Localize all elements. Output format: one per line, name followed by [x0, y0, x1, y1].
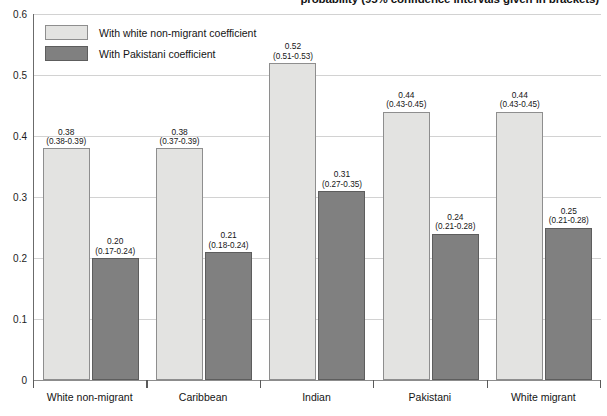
x-axis-tick — [33, 380, 34, 388]
bar-value-label: 0.52(0.51-0.53) — [273, 42, 313, 61]
bar-confidence-interval: (0.51-0.53) — [273, 52, 313, 61]
bar-group: 0.44(0.43-0.45)0.25(0.21-0.28) — [488, 14, 601, 380]
bar-value: 0.21 — [209, 231, 249, 240]
x-axis-tick — [260, 380, 261, 388]
bar[interactable]: 0.38(0.37-0.39) — [156, 148, 203, 380]
bar-value-label: 0.44(0.43-0.45) — [386, 91, 426, 110]
plot-area: 0.38(0.38-0.39)0.20(0.17-0.24)0.38(0.37-… — [33, 14, 601, 380]
bar-value: 0.38 — [160, 128, 200, 137]
bar-confidence-interval: (0.21-0.28) — [435, 222, 475, 231]
bar-confidence-interval: (0.27-0.35) — [322, 180, 362, 189]
bar-value-label: 0.25(0.21-0.28) — [549, 207, 589, 226]
bar-value-label: 0.44(0.43-0.45) — [500, 91, 540, 110]
plot-inner: 0.38(0.38-0.39)0.20(0.17-0.24)0.38(0.37-… — [34, 14, 601, 380]
legend-item[interactable]: With Pakistani coefficient — [45, 46, 256, 61]
y-tick-label: 0.4 — [13, 131, 27, 142]
bar-group: 0.38(0.38-0.39)0.20(0.17-0.24) — [34, 14, 147, 380]
x-axis-tick — [146, 380, 147, 388]
x-category-label: Pakistani — [409, 391, 452, 403]
legend-swatch-light — [45, 25, 88, 40]
bar[interactable]: 0.20(0.17-0.24) — [92, 258, 139, 380]
bar[interactable]: 0.24(0.21-0.28) — [432, 234, 479, 380]
y-tick-label: 0.1 — [13, 314, 27, 325]
bar-group: 0.44(0.43-0.45)0.24(0.21-0.28) — [374, 14, 487, 380]
bar-confidence-interval: (0.37-0.39) — [160, 137, 200, 146]
y-tick-label: 0.6 — [13, 9, 27, 20]
legend-label: With white non-migrant coefficient — [99, 27, 256, 39]
bar-value: 0.44 — [386, 91, 426, 100]
x-axis: White non-migrantCaribbeanIndianPakistan… — [33, 380, 600, 416]
bar-confidence-interval: (0.38-0.39) — [46, 137, 86, 146]
bar-value-label: 0.38(0.37-0.39) — [160, 128, 200, 147]
bar-value: 0.25 — [549, 207, 589, 216]
legend-swatch-dark — [45, 46, 88, 61]
bar-value-label: 0.31(0.27-0.35) — [322, 170, 362, 189]
bar[interactable]: 0.25(0.21-0.28) — [545, 228, 592, 381]
bar-confidence-interval: (0.21-0.28) — [549, 216, 589, 225]
bar-value-label: 0.38(0.38-0.39) — [46, 128, 86, 147]
y-tick-label: 0.2 — [13, 253, 27, 264]
bar[interactable]: 0.38(0.38-0.39) — [43, 148, 90, 380]
bar-chart-figure: 00.10.20.30.40.50.6 0.38(0.38-0.39)0.20(… — [0, 0, 607, 416]
bar-confidence-interval: (0.43-0.45) — [386, 100, 426, 109]
bar-value: 0.20 — [95, 237, 135, 246]
x-axis-tick — [600, 380, 601, 388]
bar-value: 0.24 — [435, 213, 475, 222]
bar[interactable]: 0.44(0.43-0.45) — [383, 112, 430, 380]
bar-value: 0.38 — [46, 128, 86, 137]
x-axis-tick — [373, 380, 374, 388]
bar-value-label: 0.20(0.17-0.24) — [95, 237, 135, 256]
x-category-label: White migrant — [511, 391, 576, 403]
bar[interactable]: 0.31(0.27-0.35) — [318, 191, 365, 380]
x-axis-tick — [487, 380, 488, 388]
bar-confidence-interval: (0.43-0.45) — [500, 100, 540, 109]
bar-value-label: 0.21(0.18-0.24) — [209, 231, 249, 250]
legend-label: With Pakistani coefficient — [99, 48, 216, 60]
bar-value: 0.31 — [322, 170, 362, 179]
bars-layer: 0.38(0.38-0.39)0.20(0.17-0.24)0.38(0.37-… — [34, 14, 601, 380]
y-tick-label: 0.3 — [13, 192, 27, 203]
bar-value-label: 0.24(0.21-0.28) — [435, 213, 475, 232]
bar[interactable]: 0.52(0.51-0.53) — [269, 63, 316, 380]
y-tick-label: 0.5 — [13, 70, 27, 81]
y-tick-label: 0 — [21, 375, 27, 386]
y-axis: 00.10.20.30.40.50.6 — [0, 0, 32, 416]
x-category-label: White non-migrant — [47, 391, 133, 403]
x-category-label: Caribbean — [179, 391, 227, 403]
bar-group: 0.38(0.37-0.39)0.21(0.18-0.24) — [147, 14, 260, 380]
bar-group: 0.52(0.51-0.53)0.31(0.27-0.35) — [261, 14, 374, 380]
bar-value: 0.52 — [273, 42, 313, 51]
bar-value: 0.44 — [500, 91, 540, 100]
x-category-label: Indian — [302, 391, 331, 403]
chart-legend: With white non-migrant coefficientWith P… — [37, 18, 266, 68]
bar-confidence-interval: (0.17-0.24) — [95, 247, 135, 256]
bar-confidence-interval: (0.18-0.24) — [209, 241, 249, 250]
bar[interactable]: 0.44(0.43-0.45) — [496, 112, 543, 380]
legend-item[interactable]: With white non-migrant coefficient — [45, 25, 256, 40]
bar[interactable]: 0.21(0.18-0.24) — [205, 252, 252, 380]
